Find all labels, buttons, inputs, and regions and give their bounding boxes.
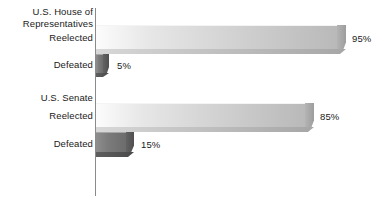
value-label-senate-reelected: 85% [320,111,339,122]
category-label-house-defeated: Defeated [54,59,93,71]
bar-depth-shelf [96,49,346,54]
bar-end-cap [337,25,346,49]
category-label-house-reelected: Reelected [49,32,93,44]
value-label-house-reelected: 95% [352,33,371,44]
group-label-senate: U.S. Senate [41,92,93,104]
bar-depth-shelf [96,152,134,157]
bar-house-reelected [96,25,346,49]
bar-depth-shelf [96,73,109,77]
bar-end-cap [305,103,314,127]
bar-senate-reelected [96,103,314,127]
bar-chart: U.S. House of Representatives Reelected … [0,0,382,216]
value-label-senate-defeated: 15% [141,139,160,150]
bar-face [96,25,337,49]
category-label-senate-defeated: Defeated [54,138,93,150]
bar-face [96,103,305,127]
bar-house-defeated [96,54,109,73]
bar-end-cap [126,132,134,152]
value-label-house-defeated: 5% [117,60,131,71]
bar-senate-defeated [96,132,134,152]
category-label-senate-reelected: Reelected [49,110,93,122]
bar-face [96,132,126,152]
bar-face [96,54,103,73]
group-label-house: U.S. House of Representatives [23,6,93,29]
bar-end-cap [103,54,109,73]
